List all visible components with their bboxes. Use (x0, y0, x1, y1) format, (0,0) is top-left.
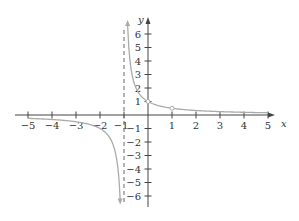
open-point (170, 106, 174, 110)
y-tick-label: 6 (135, 29, 141, 40)
y-tick-label: −5 (126, 177, 141, 188)
y-axis (146, 17, 151, 207)
curve-arrow-down-icon (118, 198, 123, 204)
y-tick-label: 3 (135, 69, 141, 80)
x-tick-label: −4 (45, 120, 60, 131)
x-tick-label: 2 (193, 120, 199, 131)
x-axis-arrow-icon (268, 113, 275, 118)
y-tick-label: −3 (126, 150, 141, 161)
open-point (146, 100, 150, 104)
y-axis-label: y (137, 14, 144, 25)
curve-arrow-up-icon (125, 20, 130, 26)
y-tick-label: 5 (135, 42, 141, 53)
x-axis-label: x (281, 118, 287, 129)
y-tick-label: −6 (126, 191, 141, 202)
y-tick-label: −4 (126, 164, 141, 175)
y-tick-label: −1 (126, 123, 141, 134)
x-axis (15, 113, 275, 118)
y-tick-label: 1 (135, 96, 141, 107)
x-tick-label: 3 (217, 120, 223, 131)
y-tick-label: 4 (135, 56, 141, 67)
y-tick-label: −2 (126, 137, 141, 148)
x-tick-label: 1 (169, 120, 175, 131)
x-tick-label: 5 (265, 120, 271, 131)
marked-points (146, 100, 174, 111)
x-tick-label: −5 (21, 120, 36, 131)
x-tick-label: 4 (241, 120, 247, 131)
function-graph: −5−4−3−2−112345 654321−1−2−3−4−5−6 x y (0, 0, 299, 221)
y-axis-arrow-icon (146, 17, 151, 24)
